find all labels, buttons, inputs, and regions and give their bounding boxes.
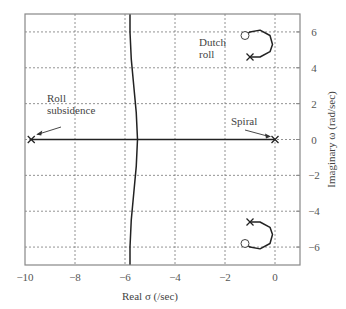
x-axis-label: Real σ (/sec) [122,290,178,303]
y-tick-label: 6 [311,26,317,38]
y-tick-label: 0 [311,134,317,146]
annotations: RollsubsidenceSpiralDutchroll [36,36,271,139]
y-tick-label: 4 [311,62,317,74]
y-tick-label: −2 [308,169,320,181]
annotation-spiral: Spiral [231,115,257,127]
y-tick-label: 2 [311,98,317,110]
annotation-line: roll [199,48,214,60]
locus-far-left-branch-lower [130,140,138,266]
x-tick-label: −2 [219,271,231,283]
locus-dutch-roll-lower [246,222,272,249]
zero-marker [241,239,249,247]
y-tick-label: −6 [308,241,320,253]
locus-series [31,14,275,265]
annotation-line: Dutch [199,36,226,48]
x-tick-label: −8 [69,271,81,283]
x-tick-label: 0 [272,271,278,283]
annotation-line: subsidence [47,104,95,116]
annotation-roll-subsidence: Rollsubsidence [47,92,95,116]
zero-marker [241,32,249,40]
annotation-arrow [245,130,269,137]
annotation-arrowhead [265,134,271,139]
annotation-dutch-roll: Dutchroll [199,36,226,60]
y-axis-label: Imaginary ω (rad/sec) [325,91,338,188]
locus-far-left-branch-upper [130,14,138,140]
locus-dutch-roll-upper [246,30,272,57]
x-tick-label: −6 [119,271,131,283]
root-locus-chart: −10−8−6−4−20−6−4−20246 Real σ (/sec) Ima… [0,0,346,309]
x-tick-label: −4 [169,271,181,283]
y-tick-label: −4 [308,205,320,217]
annotation-arrowhead [36,131,42,136]
x-tick-label: −10 [16,271,34,283]
annotation-line: Roll [47,92,66,104]
